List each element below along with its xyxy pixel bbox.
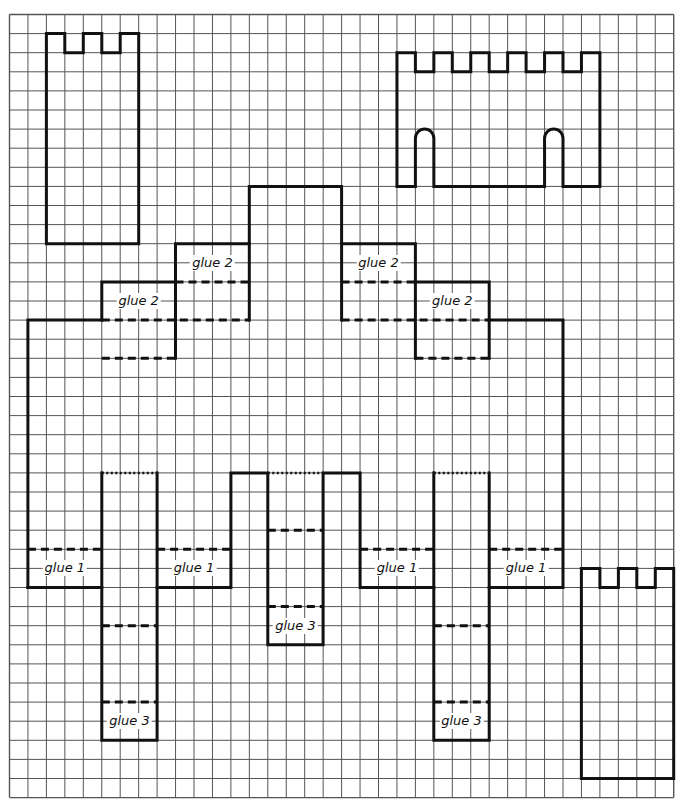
glue-label: glue 3 [273, 618, 318, 634]
glue-label: glue 2 [190, 255, 235, 271]
grid-lines [10, 15, 674, 798]
fold-outline-solid [176, 186, 342, 320]
glue-label: glue 2 [430, 293, 475, 309]
glue-label: glue 3 [439, 713, 484, 729]
glue-label: glue 3 [107, 713, 152, 729]
glue-label: glue 1 [172, 560, 217, 576]
glue-label: glue 1 [43, 560, 88, 576]
tower-bottom-right [581, 568, 673, 778]
castle-template-outlines [28, 34, 674, 779]
tower-top-left [46, 34, 138, 244]
graph-paper-sheet [0, 0, 685, 812]
glue-label: glue 1 [375, 560, 420, 576]
castle-wall-top-right [397, 53, 600, 187]
glue-label: glue 1 [504, 560, 549, 576]
glue-label: glue 2 [116, 293, 161, 309]
glue-label: glue 2 [356, 255, 401, 271]
